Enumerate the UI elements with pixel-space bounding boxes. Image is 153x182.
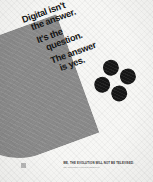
poster-artwork: Digital isn't the answer. It's the quest… [0,0,153,182]
registration-mark [21,163,26,168]
poster-caption: WE. THE EVOLUTION WILL NOT BE TELEVISED.… [63,162,134,169]
dot-left-icon [92,74,113,95]
caption-main-line: WE. THE EVOLUTION WILL NOT BE TELEVISED. [63,162,134,165]
dot-bottom-icon [109,83,130,104]
poster-canvas: Digital isn't the answer. It's the quest… [0,0,153,182]
dot-right-icon [118,66,139,87]
dot-top-icon [101,57,122,78]
caption-sub-line: The information revolution starts here. [63,166,134,169]
